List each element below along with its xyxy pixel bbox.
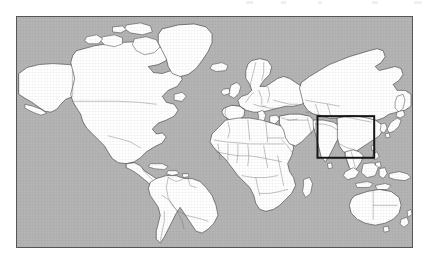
scan-artifact	[246, 1, 253, 4]
land-sri-lanka	[327, 163, 332, 169]
scan-artifact	[372, 1, 378, 4]
land-caribbean-islet	[182, 174, 189, 178]
scan-artifact	[318, 1, 322, 4]
page-root	[0, 0, 428, 263]
land-tasmania	[383, 226, 389, 232]
scan-artifact	[414, 1, 422, 4]
scan-artifact	[281, 1, 286, 4]
world-map-svg	[17, 17, 412, 247]
world-map-figure	[16, 16, 413, 248]
land-japan-kyushu	[385, 133, 390, 138]
